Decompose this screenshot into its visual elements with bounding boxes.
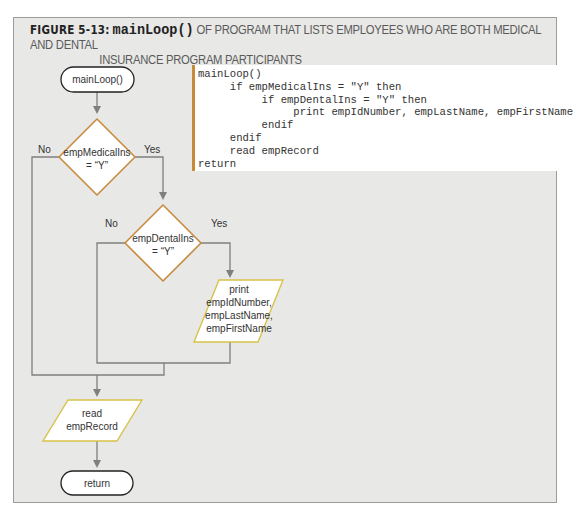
svg-text:empMedicalIns: empMedicalIns	[63, 147, 130, 158]
svg-text:= “Y”: = “Y”	[86, 160, 108, 171]
print-output-box: print empIdNumber, empLastName, empFirst…	[194, 280, 283, 342]
svg-text:empDentalIns: empDentalIns	[132, 233, 194, 244]
yes-label: Yes	[144, 144, 160, 155]
yes-label: Yes	[211, 218, 227, 229]
svg-text:empRecord: empRecord	[66, 421, 118, 432]
svg-text:print: print	[229, 284, 249, 295]
svg-text:return: return	[84, 478, 110, 489]
read-input-box: read empRecord	[43, 400, 142, 441]
return-terminator: return	[61, 471, 133, 495]
svg-text:= “Y”: = “Y”	[152, 246, 174, 257]
no-label: No	[38, 144, 51, 155]
no-label: No	[105, 218, 118, 229]
svg-text:mainLoop(): mainLoop()	[72, 74, 123, 85]
svg-text:empIdNumber,: empIdNumber,	[206, 297, 272, 308]
flowchart: mainLoop() empMedicalIns = “Y” No Yes em…	[0, 0, 573, 522]
svg-text:empFirstName: empFirstName	[206, 323, 272, 334]
svg-text:read: read	[82, 408, 102, 419]
svg-text:empLastName,: empLastName,	[205, 310, 273, 321]
start-terminator: mainLoop()	[61, 67, 134, 92]
